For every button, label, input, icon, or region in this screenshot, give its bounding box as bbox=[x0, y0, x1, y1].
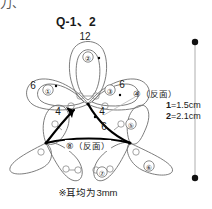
callout-8-reverse-label: ⑧（反面） bbox=[66, 141, 110, 151]
segment-length-labels: 12 6 6 4 4 6 bbox=[30, 31, 125, 132]
scale-legend: 1=1.5cm 2=2.1cm bbox=[166, 100, 201, 122]
petal-3-label: ③ bbox=[107, 88, 113, 95]
scale-dot-bottom bbox=[192, 175, 198, 181]
petal-6-label: ⑥ bbox=[146, 164, 152, 171]
segment-label-6-left: 6 bbox=[30, 80, 36, 91]
segment-label-6-center: 6 bbox=[101, 121, 107, 132]
segment-label-4-left: 4 bbox=[55, 106, 61, 117]
petal-7-label: ⑦ bbox=[99, 170, 105, 177]
diagram-sheet: 刀、 Q-1、2 bbox=[0, 0, 212, 209]
segment-label-6-right: 6 bbox=[119, 79, 125, 90]
scale-dot-top bbox=[192, 39, 198, 45]
callout-4-reverse-label: ④（反面） bbox=[133, 89, 177, 99]
segment-label-4-right: 4 bbox=[99, 106, 105, 117]
legend-line-2: 2=2.1cm bbox=[166, 111, 201, 122]
legend-value-2: =2.1cm bbox=[171, 111, 201, 121]
petal-2-label: ② bbox=[85, 55, 91, 62]
ear-connectors bbox=[57, 96, 119, 170]
petal-5-label: ⑤ bbox=[128, 122, 134, 129]
footnote: ※耳均为3mm bbox=[58, 187, 117, 198]
petal-1-label: ① bbox=[45, 88, 51, 95]
legend-line-1: 1=1.5cm bbox=[166, 100, 201, 111]
segment-label-12-top: 12 bbox=[79, 31, 91, 42]
legend-value-1: =1.5cm bbox=[171, 100, 201, 110]
